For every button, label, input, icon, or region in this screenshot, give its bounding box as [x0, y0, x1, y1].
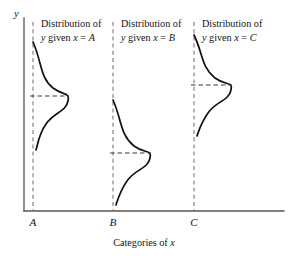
distribution-figure: y Distribution of y given x = A Distribu… [0, 0, 289, 256]
x-axis-caption: Categories of x [113, 237, 175, 248]
annotation-c: Distribution of y given x = C [201, 18, 263, 43]
annotation-b-category: B [169, 32, 175, 43]
annotation-b-equals: = [158, 32, 169, 43]
annotation-c-line2: y given x = C [201, 32, 257, 43]
tick-label-b: B [110, 216, 117, 228]
annotation-a: Distribution of y given x = A [40, 18, 102, 43]
distribution-curve-b-group [110, 100, 151, 205]
axis-group [24, 18, 284, 211]
annotation-b: Distribution of y given x = B [120, 18, 182, 43]
x-axis-caption-variable: x [169, 237, 175, 248]
annotation-c-category: C [250, 32, 257, 43]
annotation-a-equals: = [78, 32, 89, 43]
y-axis-label: y [13, 7, 19, 19]
annotation-b-line1: Distribution of [121, 18, 182, 29]
tick-label-a: A [29, 216, 37, 228]
annotation-b-line2: y given x = B [120, 32, 175, 43]
figure-container: y Distribution of y given x = A Distribu… [0, 0, 289, 256]
annotation-a-given: given [46, 32, 74, 43]
category-guides [33, 22, 194, 211]
annotation-b-given: given [126, 32, 154, 43]
distribution-curve-a-group [30, 42, 69, 150]
annotation-a-line1: Distribution of [41, 18, 102, 29]
x-axis-caption-prefix: Categories of [113, 237, 170, 248]
annotation-a-category: A [88, 32, 96, 43]
tick-label-c: C [190, 216, 198, 228]
annotation-c-equals: = [239, 32, 250, 43]
distribution-curve-c-group [191, 35, 232, 136]
annotation-a-line2: y given x = A [40, 32, 96, 43]
annotation-c-given: given [207, 32, 235, 43]
annotation-c-line1: Distribution of [202, 18, 263, 29]
x-axis-tick-labels: A B C [29, 216, 199, 228]
